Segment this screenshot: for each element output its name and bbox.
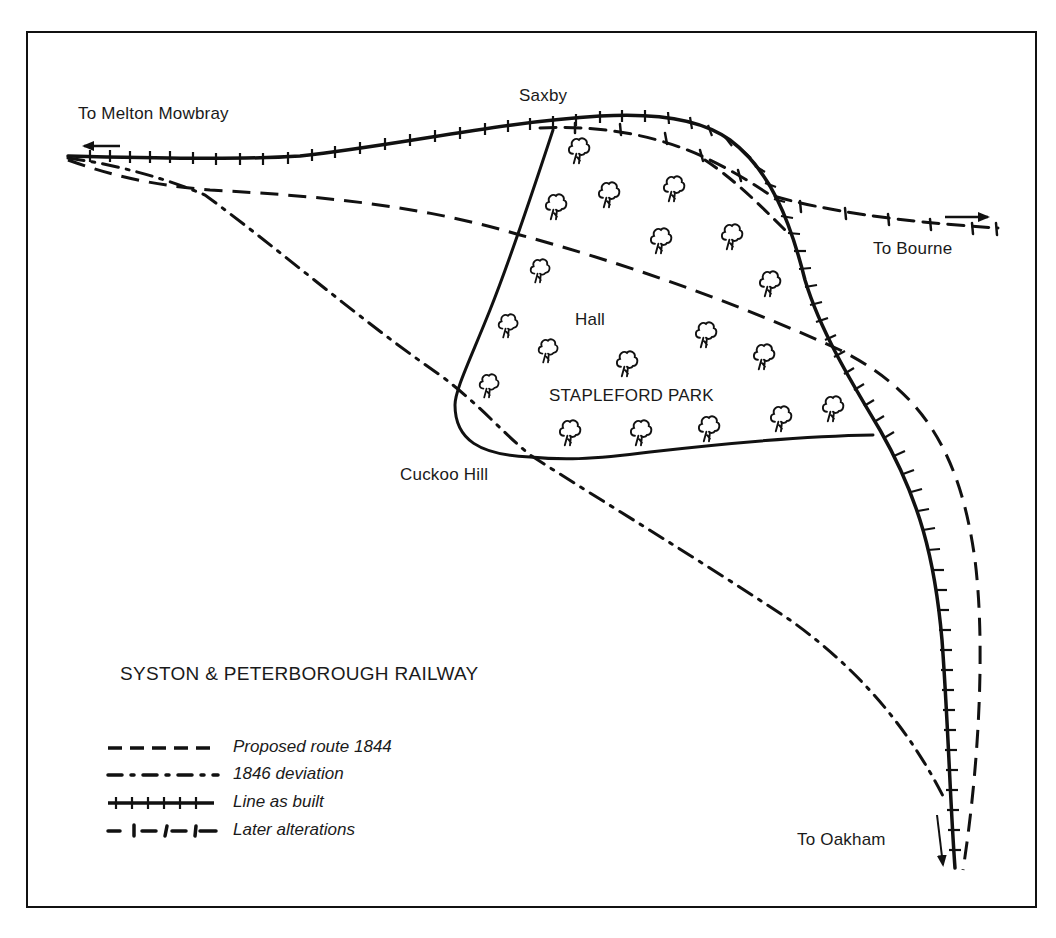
legend-item-line-as-built: Line as built: [104, 791, 424, 815]
dashed-line-icon: [104, 736, 220, 760]
legend-item-proposed-route: Proposed route 1844: [104, 736, 424, 760]
label-saxby: Saxby: [519, 86, 567, 106]
tree-icon: [699, 416, 719, 441]
label-stapleford-park: STAPLEFORD PARK: [549, 386, 714, 406]
tree-icon: [631, 420, 651, 445]
south-arrow: [937, 815, 943, 865]
tree-icon: [823, 396, 843, 421]
tree-icon: [664, 176, 684, 201]
label-hall: Hall: [575, 310, 605, 330]
tree-icon: [651, 228, 671, 253]
tree-icon: [546, 194, 566, 219]
tree-icon: [599, 182, 619, 207]
tree-icon: [531, 259, 550, 282]
legend-item-later-alterations: Later alterations: [104, 819, 424, 843]
legend-item-1846-deviation: 1846 deviation: [104, 763, 424, 787]
tree-icon: [771, 406, 791, 431]
legend-label: Proposed route 1844: [233, 737, 392, 757]
label-cuckoo-hill: Cuckoo Hill: [400, 465, 488, 485]
tree-icon: [617, 351, 637, 376]
label-to-melton-mowbray: To Melton Mowbray: [78, 104, 229, 124]
tree-icon: [480, 374, 499, 397]
deviation-1846: [68, 158, 945, 800]
tree-icon: [569, 138, 589, 163]
tree-icon: [760, 271, 780, 296]
tree-icon: [560, 420, 580, 445]
tree-icon: [499, 314, 518, 337]
ticked-line-icon: [104, 791, 220, 815]
tree-icon: [754, 344, 774, 369]
label-to-bourne: To Bourne: [873, 239, 952, 259]
tree-icon: [722, 224, 742, 249]
legend-label: 1846 deviation: [233, 764, 344, 784]
legend-label: Line as built: [233, 792, 324, 812]
dash-tick-line-icon: [104, 819, 220, 843]
legend-label: Later alterations: [233, 820, 355, 840]
dash-dot-line-icon: [104, 763, 220, 787]
tree-icon: [696, 322, 716, 347]
tree-icon: [539, 339, 558, 362]
later-alterations: [540, 123, 998, 235]
label-to-oakham: To Oakham: [797, 830, 886, 850]
legend-title: SYSTON & PETERBOROUGH RAILWAY: [120, 663, 479, 685]
